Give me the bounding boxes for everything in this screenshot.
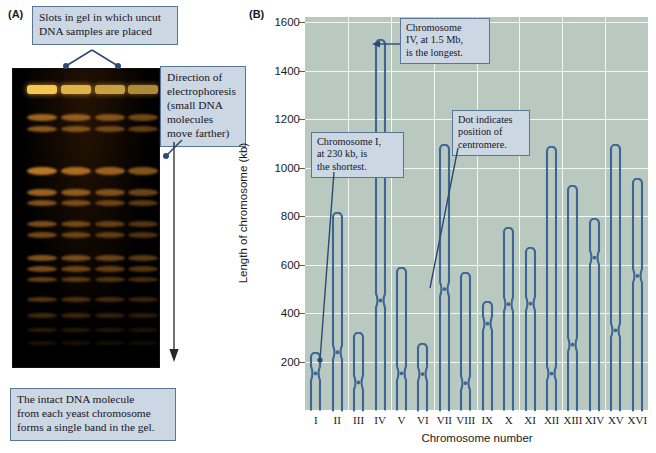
gel-band [128,85,158,94]
y-axis-tick-mark [298,216,305,217]
y-axis-tick-label: 200 [260,356,300,368]
gel-band [27,255,57,261]
gel-band [128,167,158,175]
electrophoresis-arrow-icon [166,142,182,364]
gel-lane [128,69,158,367]
centromere-dot [400,372,404,376]
y-axis-tick-mark [298,168,305,169]
x-axis-tick-label: XVI [628,414,648,426]
centromere-dot [635,274,639,278]
gel-band [128,255,158,261]
chromosome-V [394,267,409,412]
x-axis-tick-label: IX [481,414,493,426]
x-axis-tick-label: I [314,414,318,426]
gridline-vertical [348,17,349,410]
centromere-dot [357,380,361,384]
gel-band [95,221,125,227]
gel-band [95,189,125,196]
y-axis-label: Length of chromosome (kb) [237,143,249,284]
chromosome-VII [437,144,452,412]
chromosome-XII [544,146,559,412]
centromere-dot [528,301,532,305]
gel-band [128,297,158,302]
gridline-vertical [391,17,392,410]
gel-band [27,232,57,238]
gel-band [95,313,125,318]
chromosome-XI [523,247,538,412]
centromere-dot [507,303,511,307]
gel-lane [95,69,125,367]
gel-band [61,221,91,227]
gel-band [61,114,91,121]
gel-band [61,232,91,238]
gel-band [95,277,125,282]
gel-band [27,167,57,175]
gel-band [61,341,91,345]
gel-band [95,266,125,272]
gel-band [61,313,91,318]
centromere-dot [593,255,597,259]
x-axis-tick-label: V [397,414,405,426]
chromosome-X [501,227,516,412]
gel-band [95,297,125,302]
gel-band [61,85,91,94]
gel-band [61,255,91,261]
gel-band [128,328,158,332]
gel-band [128,266,158,272]
gridline-vertical [477,17,478,410]
x-axis-tick-label: XI [524,414,536,426]
gel-band [95,341,125,345]
gel-band [95,255,125,261]
gel-band [61,277,91,282]
centromere-dot [314,372,318,376]
gel-band [27,114,57,121]
y-axis-tick-label: 1000 [260,162,300,174]
gel-band [128,114,158,121]
callout-electrophoresis-direction: Direction of electrophoresis (small DNA … [160,66,246,147]
callout-chromosome-iv-longest: Chromosome IV, at 1.5 Mb, is the longest… [400,18,490,64]
y-axis-tick-label: 1600 [260,16,300,28]
gel-band [95,85,125,94]
centromere-dot [421,372,425,376]
figure-root: (A) Slots in gel in which uncut DNA samp… [0,0,656,453]
gel-band [128,189,158,196]
gel-band [61,297,91,302]
y-axis-tick-label: 400 [260,307,300,319]
gel-band [128,232,158,238]
panel-a-label: (A) [8,8,23,20]
gel-lane [61,69,91,367]
centromere-dot [571,343,575,347]
gel-band [27,200,57,206]
chromosome-XIII [565,185,580,412]
x-axis-tick-label: X [505,414,513,426]
y-axis-tick-label: 1400 [260,65,300,77]
gridline-vertical [519,17,520,410]
gel-band [95,167,125,175]
callout-chromosome-i-shortest: Chromosome I, at 230 kb, is the shortest… [311,132,404,178]
centromere-dot [335,350,339,354]
gel-electrophoresis-image [12,68,160,368]
x-axis-tick-label: III [353,414,364,426]
gel-band [95,328,125,332]
chromosome-XIV [587,218,602,412]
gel-band [27,328,57,332]
y-axis-tick-mark [298,362,305,363]
callout-centromere-dot: Dot indicates position of centromere. [452,110,530,156]
y-axis-tick-mark [298,119,305,120]
centromere-dot [550,372,554,376]
x-axis-tick-label: IV [374,414,386,426]
y-axis-tick-mark [298,22,305,23]
gel-band [128,200,158,206]
chromosome-I [308,352,323,412]
gel-band [27,85,57,94]
x-axis-tick-label: II [333,414,340,426]
gridline-vertical [605,17,606,410]
gel-band [95,232,125,238]
centromere-dot [464,381,468,385]
chromosome-VI [415,343,430,412]
y-axis-tick-label: 600 [260,259,300,271]
x-axis-tick-label: XV [608,414,624,426]
x-axis-tick-label: VI [417,414,429,426]
centromere-dot [378,299,382,303]
gel-band [27,189,57,196]
